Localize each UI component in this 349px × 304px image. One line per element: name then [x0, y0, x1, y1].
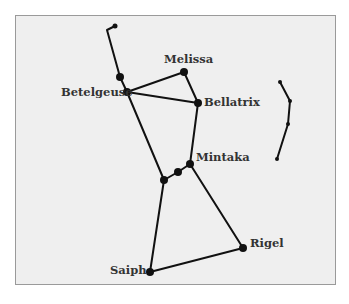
star-shield-4	[275, 157, 279, 161]
orion-diagram	[0, 0, 349, 304]
mintaka-rigel-line	[190, 164, 243, 248]
star-mintaka	[186, 160, 194, 168]
star-alnilam	[174, 168, 182, 176]
label-mintaka: Mintaka	[196, 152, 250, 164]
label-betelgeuse: Betelgeuse	[61, 87, 133, 99]
star-saiph	[146, 268, 154, 276]
star-shield-3	[286, 122, 290, 126]
shield-line	[277, 82, 290, 159]
alnitak-saiph-line	[150, 180, 164, 272]
star-club-mid	[116, 73, 124, 81]
betelgeuse-melissa-line	[127, 72, 184, 92]
club-line	[107, 26, 127, 92]
star-alnitak	[160, 176, 168, 184]
star-melissa	[180, 68, 188, 76]
label-melissa: Melissa	[164, 54, 213, 66]
star-shield-2	[288, 99, 292, 103]
label-saiph: Saiph	[110, 265, 147, 277]
star-rigel	[239, 244, 247, 252]
betelgeuse-bellatrix-line	[127, 92, 198, 103]
melissa-bellatrix-line	[184, 72, 198, 103]
star-bellatrix	[194, 99, 202, 107]
star-club-tip	[113, 24, 118, 29]
saiph-rigel-line	[150, 248, 243, 272]
label-rigel: Rigel	[250, 238, 284, 250]
betelgeuse-alnitak-line	[127, 92, 164, 180]
label-bellatrix: Bellatrix	[204, 97, 260, 109]
star-shield-1	[278, 80, 282, 84]
